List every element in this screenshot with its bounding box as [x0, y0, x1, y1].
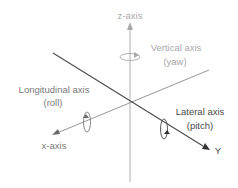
roll-label: (roll): [38, 97, 68, 108]
y-arrowhead-icon: [202, 143, 210, 150]
y-axis-label: Y: [212, 145, 224, 156]
x-axis-label: x-axis: [37, 140, 71, 151]
yaw-label: (yaw): [160, 56, 190, 67]
z-axis-label: z-axis: [114, 10, 146, 21]
pitch-label: (pitch): [182, 120, 218, 131]
z-arrowhead-icon: [127, 22, 133, 30]
lateral-axis: [53, 53, 210, 150]
x-arrowhead-icon: [52, 129, 60, 135]
vertical-axis: [120, 22, 140, 182]
longitudinal-axis-label: Longitudinal axis: [12, 84, 96, 95]
lateral-axis-label: Lateral axis: [170, 106, 230, 117]
vertical-axis-label: Vertical axis: [143, 42, 209, 53]
